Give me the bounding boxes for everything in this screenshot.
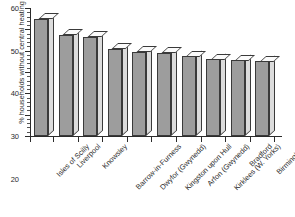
bar [83,37,97,136]
y-tick-label: 50 [11,46,19,55]
bar-front-face [108,49,122,136]
x-label-text: Dwyfor (Gwynedd) [158,142,208,192]
bar [132,52,146,136]
bar-front-face [206,59,220,136]
bar-side-face [73,30,79,136]
bar [108,49,122,136]
bar-chart: % households without central heating 010… [0,0,295,217]
bar-side-face [269,56,275,136]
y-axis-title: % households without central heating [17,0,26,128]
bar-front-face [231,60,245,136]
bar-front-face [182,56,196,136]
bar [34,19,48,136]
bar-side-face [122,44,128,136]
bar-side-face [171,48,177,136]
bar-side-face [146,47,152,136]
bar [157,53,171,136]
bar-front-face [157,53,171,136]
y-tick-label: 30 [11,132,19,141]
bar-side-face [196,51,202,136]
x-label-text: Knowsley [100,142,129,171]
y-tick-label: 40 [11,89,19,98]
bar-side-face [220,54,226,136]
bar-front-face [255,61,269,136]
x-axis-label: Dwyfor (Gwynedd) [158,142,208,192]
bar-side-face [97,32,103,136]
bar-series [30,8,285,136]
bar-side-face [48,14,54,136]
bar-side-face [245,55,251,136]
bar-front-face [132,52,146,136]
bar [255,61,269,136]
bar [182,56,196,136]
x-axis-labels: Isles of ScillyLiverpoolKnowsleyBarrow-i… [30,142,292,214]
bar [59,35,73,136]
y-tick-label: 60 [11,4,19,13]
y-tick-label: 20 [11,174,19,183]
bar-front-face [34,19,48,136]
x-axis-label: Knowsley [100,142,129,171]
bar [231,60,245,136]
bar-front-face [59,35,73,136]
bar [206,59,220,136]
plot-area: 0102030405060 [30,8,285,136]
bar-front-face [83,37,97,136]
